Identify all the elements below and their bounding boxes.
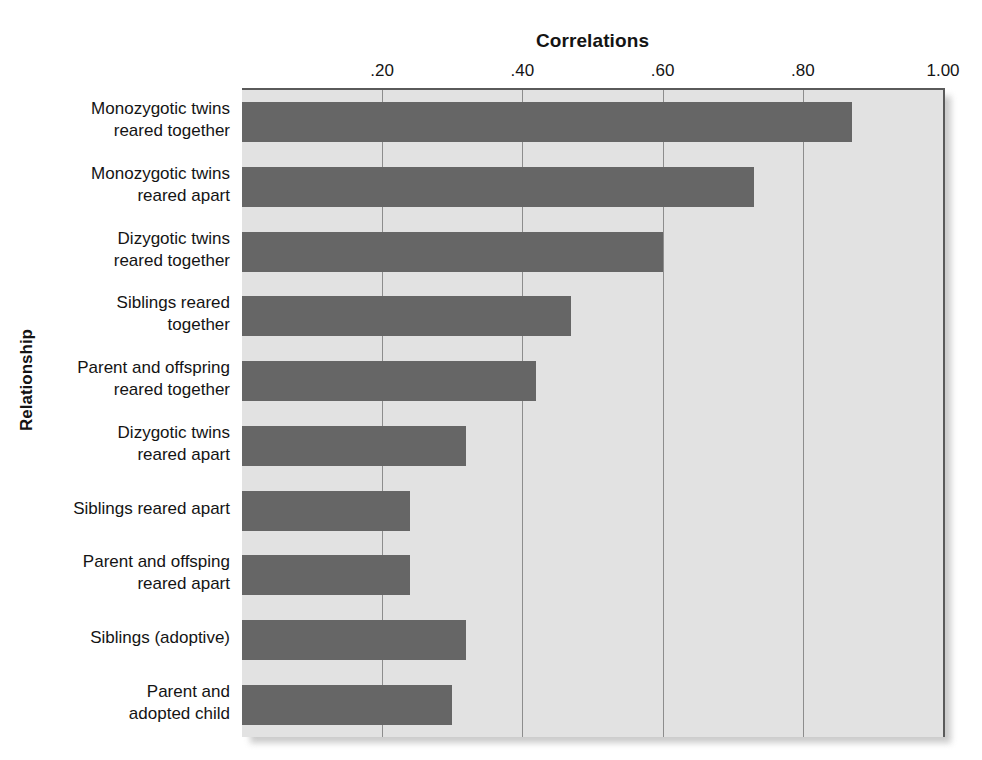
bar-row [242, 555, 943, 595]
bar-row [242, 102, 943, 142]
y-tick-label: Parent and offspring reared together [77, 357, 230, 401]
y-tick-label: Siblings (adoptive) [90, 627, 230, 649]
bar [242, 361, 536, 401]
x-tick-label: .80 [791, 61, 815, 81]
bar-row [242, 685, 943, 725]
plot-area [242, 88, 945, 737]
x-tick-label: 1.00 [926, 61, 959, 81]
bar-row [242, 232, 943, 272]
x-axis-tick-labels: .20.40.60.801.00 [0, 61, 982, 85]
y-tick-label: Monozygotic twins reared together [91, 98, 230, 142]
bar [242, 426, 466, 466]
bar-chart-figure: Correlations .20.40.60.801.00 Monozygoti… [0, 0, 982, 760]
bar-row [242, 620, 943, 660]
y-axis-title-label: Relationship [17, 329, 37, 431]
bar-row [242, 491, 943, 531]
y-tick-label: Parent and adopted child [129, 681, 230, 725]
bar-row [242, 167, 943, 207]
bar [242, 232, 663, 272]
x-tick-label: .20 [370, 61, 394, 81]
bar [242, 167, 754, 207]
y-tick-label: Dizygotic twins reared apart [118, 422, 230, 466]
bar-row [242, 296, 943, 336]
x-tick-label: .60 [651, 61, 675, 81]
bar [242, 620, 466, 660]
y-tick-label: Parent and offsping reared apart [83, 551, 230, 595]
y-tick-label: Dizygotic twins reared together [114, 228, 230, 272]
y-tick-label: Siblings reared together [117, 292, 230, 336]
bar [242, 685, 452, 725]
bar-row [242, 426, 943, 466]
bar [242, 102, 852, 142]
bar [242, 491, 410, 531]
x-tick-label: .40 [511, 61, 535, 81]
y-tick-label: Siblings reared apart [73, 498, 230, 520]
bar-series [242, 90, 943, 737]
chart-title: Correlations [242, 30, 943, 52]
y-axis-title: Relationship [10, 0, 44, 760]
bar-row [242, 361, 943, 401]
bar [242, 296, 571, 336]
bar [242, 555, 410, 595]
y-tick-label: Monozygotic twins reared apart [91, 163, 230, 207]
